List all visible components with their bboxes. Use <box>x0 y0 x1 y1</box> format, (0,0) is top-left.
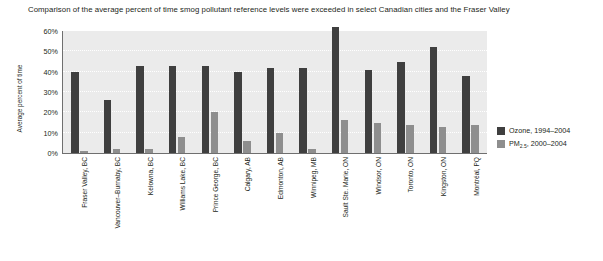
legend-label-ozone: Ozone, 1994–2004 <box>509 126 570 135</box>
legend-swatch-ozone <box>497 127 505 135</box>
bar-ozone <box>71 72 79 153</box>
bar-group <box>299 31 316 153</box>
bar-series-container <box>63 31 487 153</box>
legend-swatch-pm25 <box>497 140 505 148</box>
plot-area <box>62 31 487 153</box>
chart-figure: Comparison of the average percent of tim… <box>0 0 603 261</box>
x-tick-label: Williams Lake, BC <box>179 157 186 211</box>
x-axis-line <box>62 153 487 154</box>
bar-ozone <box>169 66 177 153</box>
y-tick-50%: 50% <box>18 47 58 56</box>
bar-ozone <box>104 100 112 153</box>
bar-pm25 <box>243 141 251 153</box>
x-tick-label: Kingston, ON <box>440 157 447 196</box>
bar-ozone <box>299 68 307 153</box>
y-tick-0%: 0% <box>18 149 58 158</box>
bar-ozone <box>365 70 373 153</box>
legend-label-pm25-suffix: , 2000–2004 <box>527 139 567 148</box>
x-axis-tick-labels: Fraser Valley, BCVancouver–Burnaby, BCKe… <box>62 157 486 257</box>
legend-label-pm25-prefix: PM <box>509 139 520 148</box>
bar-pm25 <box>374 123 382 154</box>
bar-pm25 <box>276 133 284 153</box>
bar-group <box>462 31 479 153</box>
bar-ozone <box>267 68 275 153</box>
x-tick-label: Vancouver–Burnaby, BC <box>114 157 121 229</box>
bar-group <box>365 31 382 153</box>
x-tick-label: Prince George, BC <box>212 157 219 212</box>
bar-pm25 <box>406 125 414 153</box>
bar-group <box>202 31 219 153</box>
y-tick-40%: 40% <box>18 68 58 77</box>
y-tick-20%: 20% <box>18 108 58 117</box>
y-tick-60%: 60% <box>18 27 58 36</box>
bar-group <box>430 31 447 153</box>
x-tick-label: Montréal, PQ <box>473 157 480 196</box>
x-tick-label: Sault Ste. Marie, ON <box>342 157 349 217</box>
bar-group <box>332 31 349 153</box>
legend-item-pm25: PM2.5, 2000–2004 <box>497 139 570 149</box>
bar-group <box>71 31 88 153</box>
x-tick-label: Winnipeg, MB <box>310 157 317 198</box>
chart-legend: Ozone, 1994–2004 PM2.5, 2000–2004 <box>497 126 570 153</box>
bar-group <box>169 31 186 153</box>
chart-caption: Comparison of the average percent of tim… <box>28 5 588 15</box>
bar-pm25 <box>471 125 479 153</box>
bar-pm25 <box>439 127 447 153</box>
y-axis-tick-labels: 0%10%20%30%40%50%60% <box>14 0 58 261</box>
bar-group <box>234 31 251 153</box>
bar-ozone <box>462 76 470 153</box>
y-tick-30%: 30% <box>18 88 58 97</box>
legend-label-pm25-subscript: 2.5 <box>520 143 527 149</box>
x-tick-label: Toronto, ON <box>407 157 414 193</box>
x-tick-label: Windsor, ON <box>375 157 382 194</box>
bar-pm25 <box>211 112 219 153</box>
x-tick-label: Calgary, AB <box>244 157 251 191</box>
x-tick-label: Fraser Valley, BC <box>81 157 88 208</box>
bar-ozone <box>332 27 340 153</box>
bar-ozone <box>136 66 144 153</box>
x-tick-label: Kelowna, BC <box>147 157 154 195</box>
bar-ozone <box>397 62 405 154</box>
bar-ozone <box>430 47 438 153</box>
bar-pm25 <box>178 137 186 153</box>
bar-group <box>397 31 414 153</box>
bar-group <box>267 31 284 153</box>
y-tick-10%: 10% <box>18 129 58 138</box>
bar-group <box>104 31 121 153</box>
bar-ozone <box>234 72 242 153</box>
bar-group <box>136 31 153 153</box>
bar-ozone <box>202 66 210 153</box>
x-tick-label: Edmonton, AB <box>277 157 284 199</box>
legend-label-pm25: PM2.5, 2000–2004 <box>509 139 567 149</box>
legend-item-ozone: Ozone, 1994–2004 <box>497 126 570 135</box>
bar-pm25 <box>341 120 349 153</box>
